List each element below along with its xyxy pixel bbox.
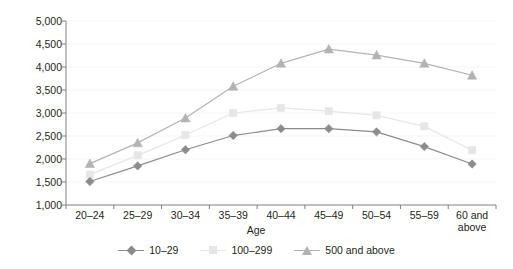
data-point-marker <box>420 142 428 150</box>
data-point-marker <box>85 159 94 168</box>
series-line <box>90 129 472 182</box>
data-point-marker <box>324 44 333 53</box>
x-tick-label: 60 andabove <box>444 209 500 233</box>
data-point-marker <box>373 112 380 119</box>
data-point-marker <box>133 162 141 170</box>
data-point-marker <box>86 177 94 185</box>
legend-label: 100–299 <box>231 244 272 256</box>
data-point-marker <box>133 138 142 147</box>
legend-item-1[interactable]: 10–29 <box>118 244 178 256</box>
data-point-marker <box>181 113 190 122</box>
data-point-marker <box>468 160 476 168</box>
data-point-marker <box>372 128 380 136</box>
data-point-marker <box>469 147 476 154</box>
legend-marker-triangle-icon <box>302 246 312 255</box>
data-point-marker <box>181 146 189 154</box>
legend-label: 500 and above <box>325 244 394 256</box>
legend-marker-square-icon <box>209 246 217 254</box>
data-point-marker <box>134 152 141 159</box>
legend-item-3[interactable]: 500 and above <box>294 244 394 256</box>
chart-container: Thousand won 1,0001,5002,0002,5003,0003,… <box>0 0 513 269</box>
chart-legend: 10–29100–299500 and above <box>0 240 513 260</box>
series-1 <box>86 124 477 185</box>
x-axis-title: Age <box>216 224 296 236</box>
series-line <box>90 108 472 175</box>
legend-label: 10–29 <box>149 244 178 256</box>
legend-item-2[interactable]: 100–299 <box>200 244 272 256</box>
legend-swatch-triangle-icon <box>294 245 320 256</box>
data-point-marker <box>277 104 284 111</box>
data-point-marker <box>325 108 332 115</box>
data-point-marker <box>325 124 333 132</box>
legend-swatch-diamond-icon <box>118 245 144 256</box>
data-point-marker <box>230 109 237 116</box>
data-point-marker <box>182 131 189 138</box>
data-point-marker <box>277 124 285 132</box>
data-point-marker <box>421 123 428 130</box>
legend-marker-diamond-icon <box>126 245 136 255</box>
data-point-marker <box>229 131 237 139</box>
series-2 <box>86 104 475 178</box>
legend-swatch-square-icon <box>200 245 226 256</box>
data-point-marker <box>229 82 238 91</box>
